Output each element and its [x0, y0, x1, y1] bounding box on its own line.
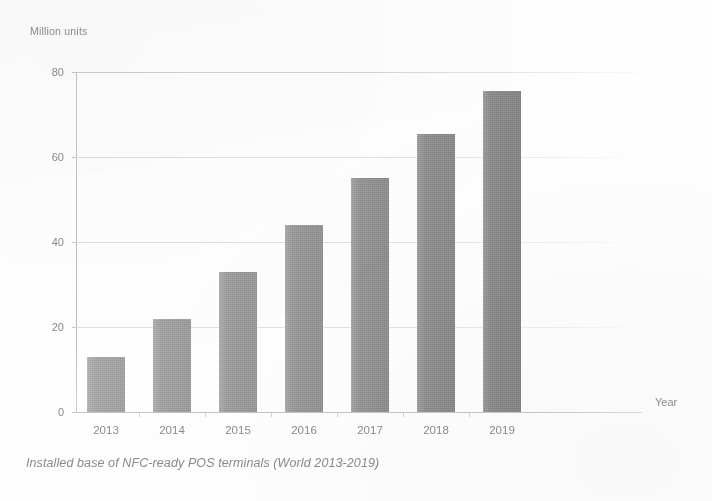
x-axis-tick-label: 2018 [406, 424, 466, 436]
x-axis-tick-mark [139, 413, 140, 417]
bar [87, 357, 125, 412]
bar [153, 319, 191, 413]
bar [219, 272, 257, 412]
y-axis-tick-mark [72, 72, 76, 73]
y-axis-tick-label: 40 [52, 236, 64, 248]
y-axis-tick-label: 60 [52, 151, 64, 163]
y-axis-tick-mark [72, 242, 76, 243]
x-axis-tick-mark [205, 413, 206, 417]
x-axis-tick-mark [469, 413, 470, 417]
y-axis-unit-label: Million units [30, 25, 87, 37]
bar [285, 225, 323, 412]
figure-caption: Installed base of NFC-ready POS terminal… [26, 456, 379, 470]
x-axis-tick-label: 2014 [142, 424, 202, 436]
figure-page: Million units 020406080 2013201420152016… [0, 0, 712, 501]
plot-area: 020406080 2013201420152016201720182019 [76, 72, 650, 412]
y-axis-tick-label: 0 [58, 406, 64, 418]
bar [483, 91, 521, 412]
x-axis-tick-label: 2019 [472, 424, 532, 436]
y-axis-tick-label: 80 [52, 66, 64, 78]
y-axis-tick-mark [72, 157, 76, 158]
x-axis-title: Year [655, 396, 677, 408]
bar [351, 178, 389, 412]
x-axis-tick-mark [271, 413, 272, 417]
gridline: 80 [76, 72, 638, 73]
x-axis-tick-mark [337, 413, 338, 417]
bar [417, 134, 455, 412]
x-axis-tick-label: 2013 [76, 424, 136, 436]
x-axis-tick-label: 2017 [340, 424, 400, 436]
gridline: 0 [76, 412, 624, 413]
gridline: 40 [76, 242, 624, 243]
y-axis-tick-mark [72, 412, 76, 413]
y-axis-tick-label: 20 [52, 321, 64, 333]
x-axis-tick-label: 2015 [208, 424, 268, 436]
y-axis-tick-mark [72, 327, 76, 328]
gridline: 60 [76, 157, 624, 158]
x-axis-tick-mark [403, 413, 404, 417]
x-axis-tick-label: 2016 [274, 424, 334, 436]
